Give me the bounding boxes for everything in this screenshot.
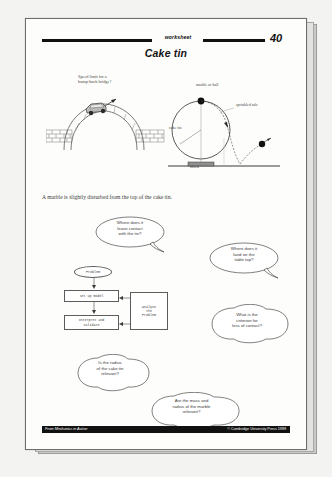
- footer-bar: From Mechanics in Action © Cambridge Uni…: [42, 426, 290, 433]
- flow-node-analyse-problem: Analyse the Problem: [130, 292, 168, 330]
- footer-source: From Mechanics in Action: [45, 427, 87, 431]
- bubble-radius-tin: [70, 354, 156, 396]
- figure-area: Speed limit for a hump-back bridge?: [40, 72, 292, 184]
- worksheet-page: worksheet 40 Cake tin Speed limit for a …: [0, 0, 332, 477]
- flow-arrow-model-to-interpret: [90, 302, 98, 315]
- instruction-text: A marble is slightly disturbed from the …: [42, 194, 282, 200]
- label-marble-or-ball: marble or ball: [196, 82, 218, 87]
- flow-node-set-up-model: Set up model: [64, 290, 119, 302]
- label-block: block: [190, 164, 199, 169]
- flow-arrow-problem-to-model: [90, 278, 98, 290]
- bubble-land-table: [206, 240, 290, 282]
- flow-arrow-analyse-to-interpret: [119, 320, 132, 328]
- worksheet-label: worksheet: [154, 34, 202, 40]
- header-rule-right: [203, 39, 265, 42]
- page-title: Cake tin: [42, 47, 290, 59]
- cake-tin-diagram: [168, 78, 286, 173]
- car-icon: [86, 103, 106, 115]
- flow-arrow-model-to-analyse: [119, 294, 132, 302]
- bubble-criterion: [204, 304, 296, 348]
- bubble-leave-contact: [92, 214, 176, 256]
- page-number: 40: [270, 32, 282, 44]
- header-rule-row: worksheet 40: [42, 34, 290, 48]
- worksheet-sheet: worksheet 40 Cake tin Speed limit for a …: [25, 18, 307, 450]
- header-rule-left: [42, 39, 152, 42]
- footer-copyright: © Cambridge University Press 1989: [227, 427, 286, 431]
- bridge-caption: Speed limit for a hump-back bridge?: [78, 74, 111, 85]
- label-sprinkled-talc: sprinkled talc: [236, 102, 258, 107]
- label-cake-tin: cake tin: [169, 125, 182, 130]
- flow-node-problem: Problem: [74, 266, 112, 278]
- flow-node-interpret-validate: Interpret and validate: [64, 315, 119, 330]
- sheet-content: worksheet 40 Cake tin Speed limit for a …: [34, 26, 298, 441]
- hump-back-bridge-diagram: [46, 90, 166, 170]
